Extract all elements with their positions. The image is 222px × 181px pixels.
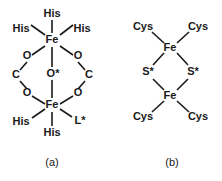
bond-o-upper-right-c-right: [78, 62, 85, 70]
label-cys-top-right: Cys: [188, 20, 208, 32]
bond-o-lower-right-fe-bottom: [60, 96, 73, 104]
caption-panel-b: (b): [165, 156, 178, 168]
bond-fe-bottom-l-star: [60, 109, 72, 117]
label-his-top-left: His: [12, 22, 29, 34]
caption-panel-a: (a): [45, 156, 58, 168]
label-his-top: His: [43, 7, 60, 19]
label-fe-top-b: Fe: [164, 41, 177, 53]
label-oxo-bridge: O*: [47, 67, 61, 79]
bond-fe-bottom-his-bottom-left: [32, 109, 45, 118]
panel-a: His His His Fe O O C O* C O O Fe His L* …: [12, 7, 93, 168]
label-his-top-right: His: [73, 22, 90, 34]
label-cys-bottom-left: Cys: [133, 110, 153, 122]
bond-s-right-fe-bottom: [177, 79, 188, 90]
label-fe-bottom-b: Fe: [164, 89, 177, 101]
bond-o-lower-left-fe-bottom: [32, 96, 45, 104]
bond-fe-top-his-top-left: [31, 25, 45, 35]
bond-o-upper-left-c-left: [20, 62, 27, 70]
label-s-right: S*: [187, 65, 199, 77]
label-o-lower-left: O: [23, 86, 32, 98]
label-o-upper-left: O: [23, 49, 32, 61]
label-o-lower-right: O: [74, 86, 83, 98]
label-o-upper-right: O: [74, 49, 83, 61]
bond-s-left-fe-bottom: [153, 79, 164, 90]
label-cys-bottom-right: Cys: [188, 110, 208, 122]
bond-fe-top-o-upper-left: [32, 46, 45, 55]
label-his-bottom-left: His: [12, 115, 29, 127]
bond-fe-top-s-right: [177, 53, 188, 65]
label-s-left: S*: [142, 65, 154, 77]
bond-fe-top-s-left: [153, 53, 164, 65]
label-c-left: C: [12, 68, 20, 80]
figure-root: His His His Fe O O C O* C O O Fe His L* …: [0, 0, 222, 181]
structure-figure: His His His Fe O O C O* C O O Fe His L* …: [0, 0, 222, 181]
label-fe-bottom: Fe: [46, 98, 59, 110]
panel-b: Cys Cys Fe S* S* Fe Cys Cys (b): [133, 20, 208, 168]
bond-fe-top-cys-top-right: [177, 32, 189, 43]
bond-fe-bottom-cys-bottom-left: [152, 101, 164, 112]
bond-fe-top-cys-top-left: [152, 32, 164, 43]
bond-fe-top-o-upper-right: [60, 46, 73, 55]
label-l-star: L*: [75, 114, 87, 126]
label-fe-top: Fe: [46, 33, 59, 45]
label-cys-top-left: Cys: [133, 20, 153, 32]
label-his-bottom: His: [43, 126, 60, 138]
label-c-right: C: [85, 68, 93, 80]
bond-fe-top-his-top-right: [60, 25, 73, 35]
